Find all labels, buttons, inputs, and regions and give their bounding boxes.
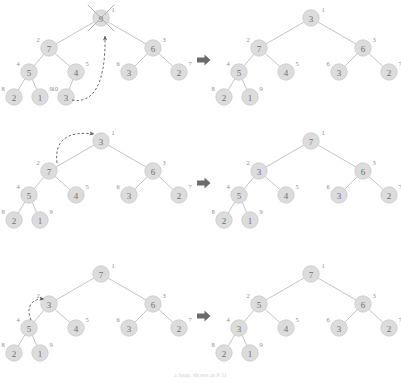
node-value: 6 (151, 300, 156, 310)
tree-edge (244, 310, 254, 321)
tree-edge (56, 145, 94, 167)
tree-node: 27 (381, 183, 401, 204)
node-value: 1 (248, 93, 253, 103)
tree-node: 54 (16, 60, 37, 81)
node-index: 4 (226, 183, 230, 190)
node-index: 8 (211, 208, 214, 215)
node-value: 7 (47, 167, 52, 177)
node-index: 9 (49, 208, 52, 215)
node-value: 2 (387, 191, 392, 201)
node-value: 3 (127, 191, 132, 201)
tree-node: 63 (355, 36, 376, 57)
node-index: 8 (1, 208, 4, 215)
node-index: 2 (36, 159, 39, 166)
tree-node: 28 (211, 85, 232, 106)
node-index: 3 (372, 292, 375, 299)
implies-arrows (197, 54, 211, 321)
node-value: 3 (309, 14, 314, 24)
tree-edge (135, 177, 147, 189)
tree-edge (159, 177, 173, 190)
node-value: 3 (64, 93, 69, 103)
tree-node: 72 (36, 159, 57, 180)
tree-node: 63 (145, 36, 166, 57)
node-index: 4 (226, 60, 230, 67)
node-value: 2 (177, 324, 182, 334)
tree-edge (318, 145, 356, 167)
node-value: 2 (222, 216, 227, 226)
node-value: 3 (127, 68, 132, 78)
tree-node: 36 (326, 60, 347, 81)
tree-node: 45 (68, 316, 89, 337)
node-value: 7 (47, 44, 52, 54)
node-index: 4 (16, 316, 20, 323)
tree-edge (265, 176, 280, 189)
node-index: 1 (321, 6, 324, 13)
implies-arrow-icon (197, 177, 211, 188)
tree-edge (69, 80, 73, 90)
implies-arrow-icon (197, 310, 211, 321)
node-index: 10 (52, 85, 59, 92)
tree-edge (318, 22, 356, 44)
node-value: 2 (12, 216, 17, 226)
node-value: 6 (361, 300, 366, 310)
node-index: 9 (49, 341, 52, 348)
node-value: 2 (177, 68, 182, 78)
node-value: 2 (222, 349, 227, 359)
tree-node: 36 (326, 316, 347, 337)
node-value: 1 (248, 216, 253, 226)
tree-edge (108, 145, 146, 167)
tree-node: 27 (381, 316, 401, 337)
node-index: 6 (326, 183, 330, 190)
node-value: 1 (38, 349, 43, 359)
node-value: 2 (12, 349, 17, 359)
node-index: 2 (36, 36, 39, 43)
tree-node: 31 (303, 6, 325, 27)
tree-node: 63 (145, 159, 166, 180)
tree-edge (56, 278, 94, 300)
tree-edge (159, 310, 173, 323)
tree-edge (34, 177, 44, 188)
tree-edge (242, 336, 246, 346)
tree-node: 28 (211, 341, 232, 362)
node-value: 6 (361, 167, 366, 177)
node-index: 4 (226, 316, 230, 323)
node-value: 7 (99, 270, 104, 280)
node-value: 3 (99, 137, 104, 147)
tree-node: 27 (171, 60, 193, 81)
tree-node: 27 (171, 316, 193, 337)
node-index: 8 (211, 85, 214, 92)
heap-siftdown-figure: 9172635445362728193103172635445362728193… (0, 0, 401, 383)
node-value: 5 (237, 191, 242, 201)
node-value: 3 (337, 324, 342, 334)
tree-node: 310 (52, 85, 74, 106)
node-index: 7 (188, 60, 192, 67)
node-index: 5 (85, 316, 88, 323)
tree-edge (369, 177, 383, 190)
tree-node: 63 (145, 292, 166, 313)
tree-node: 19 (242, 208, 263, 229)
tree-node: 31 (93, 129, 115, 150)
tree-node: 54 (16, 316, 37, 337)
tree-edge (32, 336, 36, 346)
tree-node: 28 (1, 341, 22, 362)
node-index: 2 (36, 292, 39, 299)
node-value: 2 (387, 324, 392, 334)
node-value: 4 (74, 324, 79, 334)
node-index: 2 (246, 292, 249, 299)
tree-edge (135, 310, 147, 322)
tree-edge (228, 335, 235, 346)
node-index: 1 (321, 129, 324, 136)
node-index: 3 (162, 159, 165, 166)
figure-caption: a heap, shown as 9 11 (0, 372, 401, 378)
tree-edge (369, 54, 383, 67)
tree-edge (228, 79, 235, 90)
node-index: 7 (188, 316, 192, 323)
node-value: 1 (38, 216, 43, 226)
tree-edge (265, 309, 280, 322)
node-index: 5 (295, 183, 298, 190)
node-index: 5 (85, 183, 88, 190)
tree-edge (266, 22, 304, 44)
tree-node: 45 (278, 316, 299, 337)
node-value: 5 (237, 68, 242, 78)
node-index: 9 (259, 208, 262, 215)
